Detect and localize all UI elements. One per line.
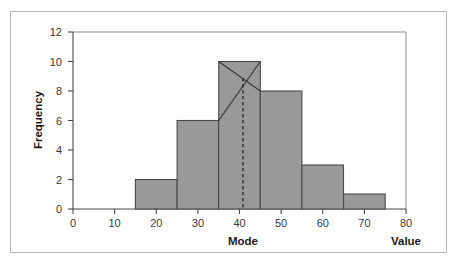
histogram-bar	[177, 121, 219, 210]
y-tick-label-2: 2	[56, 174, 62, 186]
histogram-bar	[302, 165, 344, 209]
figure-frame: 0 2 4 6 8 10 12 0 10 20 30 40 50	[10, 11, 447, 253]
y-tick-label-6: 6	[56, 115, 62, 127]
x-tick-label-50: 50	[275, 217, 287, 229]
x-tick-label-70: 70	[358, 217, 370, 229]
y-tick-label-8: 8	[56, 85, 62, 97]
histogram-bar	[219, 62, 261, 210]
histogram-chart: 0 2 4 6 8 10 12 0 10 20 30 40 50	[11, 12, 445, 251]
y-tick-label-0: 0	[56, 203, 62, 215]
x-axis-title: Value	[391, 235, 421, 247]
histogram-bar	[135, 180, 177, 210]
y-tick-label-10: 10	[50, 56, 62, 68]
histogram-bar	[344, 194, 386, 209]
x-tick-label-0: 0	[70, 217, 76, 229]
mode-label: Mode	[228, 235, 258, 247]
x-tick-label-10: 10	[108, 217, 120, 229]
histogram-bar	[260, 91, 302, 209]
x-tick-label-80: 80	[400, 217, 412, 229]
y-tick-label-12: 12	[50, 26, 62, 38]
y-axis-tick-labels: 0 2 4 6 8 10 12	[50, 26, 62, 215]
x-tick-label-60: 60	[317, 217, 329, 229]
x-axis-ticks	[73, 209, 406, 214]
x-tick-label-30: 30	[192, 217, 204, 229]
x-tick-label-20: 20	[150, 217, 162, 229]
y-axis-title: Frequency	[32, 90, 44, 149]
x-axis-tick-labels: 0 10 20 30 40 50 60 70 80	[70, 217, 412, 229]
y-axis-ticks	[68, 32, 73, 209]
x-tick-label-40: 40	[233, 217, 245, 229]
y-tick-label-4: 4	[56, 144, 62, 156]
